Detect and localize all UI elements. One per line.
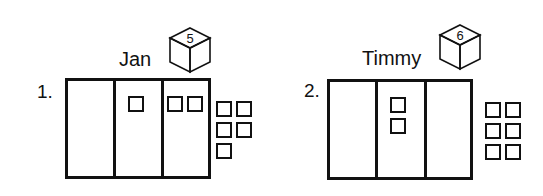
extra-block <box>485 123 501 139</box>
problem-number: 2. <box>304 81 320 101</box>
extra-block <box>216 143 232 159</box>
cube-value: 6 <box>456 28 463 43</box>
unit-block <box>128 96 144 112</box>
column-divider <box>424 82 427 177</box>
problem-number: 1. <box>37 82 53 102</box>
player-name: Timmy <box>362 47 421 69</box>
unit-block <box>187 96 203 112</box>
number-cube-icon: 6 <box>438 23 482 73</box>
column-divider <box>375 82 378 177</box>
column-divider <box>161 81 164 176</box>
extra-block <box>505 144 521 160</box>
extra-block <box>216 101 232 117</box>
unit-block <box>390 118 406 134</box>
extra-block <box>505 102 521 118</box>
extra-block <box>485 102 501 118</box>
column-divider <box>113 81 116 176</box>
place-value-board <box>327 79 473 180</box>
extra-block <box>485 144 501 160</box>
place-value-board <box>65 78 211 179</box>
unit-block <box>390 97 406 113</box>
number-cube-icon: 5 <box>168 26 212 76</box>
player-name: Jan <box>119 48 151 70</box>
cube-value: 5 <box>186 31 193 46</box>
unit-block <box>167 96 183 112</box>
extra-block <box>216 122 232 138</box>
extra-block <box>236 101 252 117</box>
extra-block <box>505 123 521 139</box>
extra-block <box>236 122 252 138</box>
